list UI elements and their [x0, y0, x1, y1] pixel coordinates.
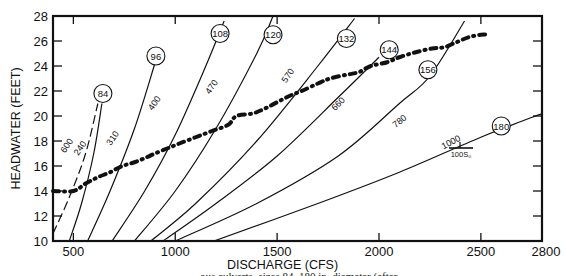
diameter-label: 96 [151, 51, 162, 62]
x-tick-label: 2000 [365, 244, 394, 259]
y-tick-label: 14 [34, 184, 48, 199]
diameter-label: 108 [212, 28, 228, 39]
y-tick-label: 24 [34, 59, 48, 74]
diameter-label: 120 [265, 29, 281, 40]
y-axis-label: HEADWATER (FEET) [9, 67, 23, 189]
diameter-label: 156 [420, 64, 436, 75]
y-tick-label: 10 [34, 234, 48, 249]
x-tick-label: 500 [63, 244, 85, 259]
x-tick-label: 2800 [532, 244, 561, 259]
diameter-label: 84 [98, 88, 109, 99]
x-tick-label: 1000 [161, 244, 190, 259]
x-tick-label: 2500 [466, 244, 495, 259]
curve-value-label: 310 [104, 129, 121, 147]
culvert-curves: 8496108120132144156180 [53, 16, 542, 241]
figure-caption: ous culverts, sizes 84–180 in. diameter … [200, 268, 566, 276]
curve-value-label: 660 [329, 95, 347, 113]
curve-value-label: 780 [391, 113, 409, 130]
y-tick-label: 22 [34, 84, 48, 99]
diameter-label: 180 [493, 121, 509, 132]
plot-frame [53, 16, 542, 241]
headwater-trace [53, 35, 489, 192]
dash-dot-series [53, 35, 489, 192]
curve-value-label: 570 [280, 67, 297, 85]
diameter-label: 132 [338, 33, 354, 44]
chart: 1012141618202224262850010001500200025002… [0, 0, 566, 276]
curve-value-label: 400 [146, 94, 163, 112]
diameter-label: 144 [381, 44, 397, 55]
culvert-curve-132 [151, 19, 355, 242]
culvert-curve-108 [112, 21, 224, 241]
y-tick-label: 16 [34, 159, 48, 174]
y-tick-label: 26 [34, 34, 48, 49]
y-tick-label: 18 [34, 134, 48, 149]
culvert-curve-156 [175, 21, 464, 241]
curve-value-label: 470 [203, 78, 220, 96]
x-tick-label: 1500 [263, 244, 292, 259]
culvert-curve-180 [214, 114, 542, 242]
y-tick-label: 20 [34, 109, 48, 124]
y-tick-label: 12 [34, 209, 48, 224]
y-tick-label: 28 [34, 9, 48, 24]
slope-annotation: 100S₀ [451, 150, 472, 159]
